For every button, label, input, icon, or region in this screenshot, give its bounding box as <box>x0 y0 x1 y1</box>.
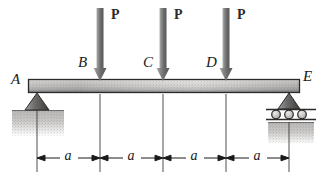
beam-diagram-canvas <box>0 0 322 175</box>
load-label-b: P <box>111 8 120 22</box>
dimension-label-d-e: a <box>251 149 263 163</box>
load-arrow-d <box>220 8 233 81</box>
beam <box>28 79 300 93</box>
load-arrow-c <box>157 8 170 81</box>
beam-diagram-figure: A B C D E P P P a a a a <box>0 0 322 175</box>
dimension-label-b-c: a <box>125 149 137 163</box>
support-a-ground <box>12 110 64 136</box>
node-label-e: E <box>303 69 312 84</box>
node-label-b: B <box>78 55 87 70</box>
load-label-d: P <box>237 8 246 22</box>
node-label-a: A <box>11 72 20 87</box>
support-e-ground <box>268 122 314 144</box>
roller-wheels <box>272 110 307 119</box>
node-label-d: D <box>206 55 217 70</box>
load-arrow-b <box>94 8 107 81</box>
support-a-pin <box>25 93 49 110</box>
dimension-label-c-d: a <box>188 149 200 163</box>
node-label-c: C <box>143 55 153 70</box>
support-e-roller <box>266 93 316 120</box>
dimension-label-a-b: a <box>62 149 74 163</box>
load-label-c: P <box>174 8 183 22</box>
